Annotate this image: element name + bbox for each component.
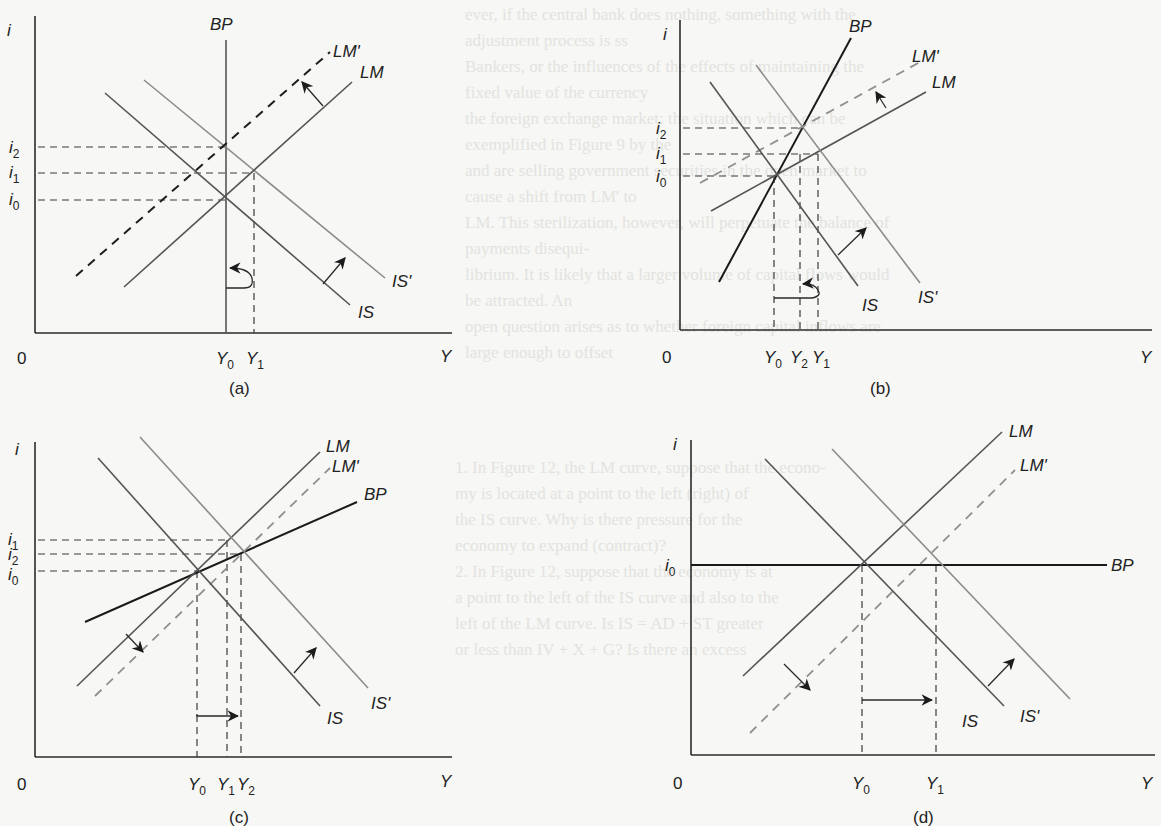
lm-curve (743, 432, 1002, 676)
is-prime-curve (832, 449, 1070, 699)
panel-d: i LM LM' BP IS' IS i0 0 Y0 Y1 Y (d) (665, 422, 1155, 826)
bp-label: BP (210, 15, 233, 34)
i0-tick-label: i0 (656, 167, 667, 190)
panel-a: i BP LM' LM IS' IS i2 i1 i0 0 Y0 Y1 Y (a… (7, 15, 453, 398)
lm-label: LM (326, 437, 350, 456)
x-axis-label: Y (440, 772, 453, 791)
lm-shift-arrow (876, 92, 886, 108)
y0-tick-label: Y0 (852, 774, 870, 797)
bp-label: BP (1111, 556, 1134, 575)
i0-tick-label: i0 (665, 556, 676, 579)
i0-tick-label: i0 (8, 565, 19, 588)
lm-prime-label: LM' (1020, 456, 1048, 475)
lm-label: LM (360, 63, 384, 82)
panel-caption: (b) (870, 379, 891, 398)
is-label: IS (962, 712, 979, 731)
is-curve (98, 458, 320, 706)
x-axis-label: Y (440, 347, 453, 366)
income-return-arrow (774, 284, 819, 298)
y-axis-label: i (7, 21, 12, 40)
y-axis-label: i (663, 25, 668, 44)
panel-caption: (d) (913, 808, 934, 826)
income-increase-arrow (197, 714, 238, 716)
y2-tick-label: Y2 (790, 348, 808, 371)
i0-tick-label: i0 (9, 190, 20, 213)
is-shift-arrow (294, 648, 316, 673)
lm-prime-curve (750, 470, 1015, 733)
is-label: IS (327, 709, 344, 728)
x-axis-label: Y (1141, 774, 1154, 793)
is-shift-arrow (988, 659, 1014, 686)
bp-label: BP (849, 17, 872, 36)
y0-tick-label: Y0 (188, 775, 206, 798)
lm-prime-curve (76, 52, 330, 276)
bp-label: BP (364, 485, 387, 504)
i2-tick-label: i2 (9, 138, 20, 161)
is-prime-label: IS' (392, 272, 412, 291)
income-return-arrow (226, 268, 252, 288)
lm-curve (124, 82, 352, 287)
lm-curve (77, 452, 320, 686)
panel-caption: (a) (229, 379, 250, 398)
is-prime-label: IS' (918, 288, 938, 307)
lm-label: LM (932, 73, 956, 92)
lm-prime-curve (700, 62, 920, 183)
y-axis-label: i (673, 435, 678, 454)
origin-label: 0 (17, 349, 26, 368)
y1-tick-label: Y1 (812, 348, 830, 371)
origin-label: 0 (662, 348, 671, 367)
y-axis-label: i (15, 440, 20, 459)
lm-shift-arrow (126, 634, 143, 652)
is-curve (105, 93, 350, 305)
is-label: IS (358, 303, 375, 322)
origin-label: 0 (673, 774, 682, 793)
y1-tick-label: Y1 (217, 775, 235, 798)
is-prime-label: IS' (1020, 707, 1040, 726)
is-shift-arrow (323, 258, 345, 284)
is-prime-label: IS' (371, 694, 391, 713)
lm-shift-arrow (302, 82, 323, 106)
is-label: IS (862, 296, 879, 315)
is-prime-curve (144, 80, 385, 278)
i1-tick-label: i1 (9, 163, 20, 186)
is-shift-arrow (838, 228, 866, 255)
y0-tick-label: Y0 (764, 348, 782, 371)
panel-caption: (c) (229, 808, 249, 826)
y2-tick-label: Y2 (237, 775, 255, 798)
lm-label: LM (1009, 422, 1033, 441)
y0-tick-label: Y0 (216, 349, 234, 372)
lm-prime-curve (95, 468, 330, 696)
lm-prime-label: LM' (332, 457, 360, 476)
is-lm-bp-figure: i BP LM' LM IS' IS i2 i1 i0 0 Y0 Y1 Y (a… (0, 0, 1161, 826)
bp-curve (85, 502, 357, 622)
lm-prime-label: LM' (333, 42, 361, 61)
i2-tick-label: i2 (656, 119, 667, 142)
is-curve (710, 82, 858, 286)
is-prime-curve (756, 65, 920, 283)
y1-tick-label: Y1 (246, 349, 264, 372)
bp-curve (719, 38, 851, 282)
i1-tick-label: i1 (656, 144, 667, 167)
is-curve (765, 459, 1004, 706)
lm-prime-label: LM' (912, 47, 940, 66)
y1-tick-label: Y1 (926, 774, 944, 797)
origin-label: 0 (17, 775, 26, 794)
x-axis-label: Y (1140, 348, 1153, 367)
panel-b: i BP LM' LM IS' IS i2 i1 i0 0 Y0 Y2 Y1 Y… (656, 17, 1153, 398)
panel-c: i LM LM' BP IS' IS i1 i2 i0 0 Y0 Y1 Y2 Y… (8, 437, 453, 826)
